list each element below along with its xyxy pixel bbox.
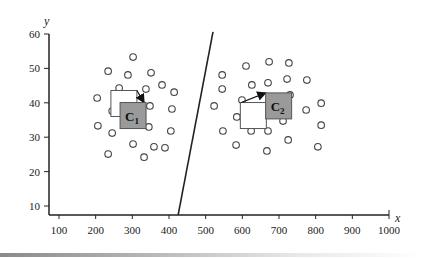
kmeans-chart: 1002003004005006007008009001000102030405… <box>0 0 424 258</box>
cluster-1-point <box>169 106 176 113</box>
decision-boundary-group <box>178 32 213 215</box>
x-tick-label: 700 <box>271 224 288 236</box>
cluster-1-point <box>125 72 132 79</box>
decision-boundary-line <box>178 32 213 215</box>
cluster-1-point <box>171 89 178 96</box>
cluster-2-point <box>315 144 322 151</box>
cluster-2-point <box>286 60 293 67</box>
cluster-2-point <box>303 107 310 114</box>
cluster-1-point <box>151 144 158 151</box>
cluster-1-point <box>141 154 148 161</box>
previous-centroid-square-2 <box>240 103 266 129</box>
y-tick-label: 20 <box>29 166 41 178</box>
x-axis-label: x <box>394 211 401 225</box>
cluster-2-point <box>219 72 226 79</box>
cluster-2-point <box>243 63 250 70</box>
cluster-2-point <box>219 86 226 93</box>
x-tick-label: 500 <box>197 224 214 236</box>
x-tick-label: 800 <box>307 224 324 236</box>
cluster-2-point <box>318 122 325 129</box>
x-tick-label: 200 <box>87 224 104 236</box>
cluster-2-point <box>304 77 311 84</box>
centroid-move-arrow-1 <box>137 90 144 102</box>
cluster-2-point <box>284 76 291 83</box>
bottom-edge-shadow <box>0 253 424 257</box>
cluster-1-point <box>159 82 166 89</box>
x-tick-label: 900 <box>344 224 361 236</box>
cluster-1-point <box>109 130 116 137</box>
cluster-1-point <box>147 103 154 110</box>
cluster-2-point <box>266 59 273 66</box>
cluster-2-point <box>265 80 272 87</box>
cluster-2-point <box>264 148 271 155</box>
cluster-1-point <box>148 70 155 77</box>
cluster-2-point <box>285 137 292 144</box>
cluster-1-point <box>130 54 137 61</box>
y-tick-label: 10 <box>29 200 41 212</box>
x-tick-label: 400 <box>161 224 178 236</box>
cluster-2-point <box>233 142 240 149</box>
cluster-1-point <box>130 141 137 148</box>
cluster-1-point <box>162 145 169 152</box>
cluster-2-point <box>211 103 218 110</box>
cluster-1-point <box>105 68 112 75</box>
y-axis-label: y <box>43 14 50 28</box>
cluster-1-point <box>95 123 102 130</box>
y-tick-label: 60 <box>29 28 41 40</box>
x-tick-label: 300 <box>124 224 141 236</box>
y-tick-label: 40 <box>29 97 41 109</box>
y-tick-label: 30 <box>29 131 41 143</box>
cluster-1-point <box>105 151 112 158</box>
cluster-2-point <box>234 114 241 121</box>
cluster-2-point <box>249 82 256 89</box>
y-tick-label: 50 <box>29 62 41 74</box>
x-tick-label: 600 <box>234 224 251 236</box>
axes: 1002003004005006007008009001000102030405… <box>29 28 401 236</box>
cluster-1-point <box>143 86 150 93</box>
cluster-1-point <box>94 95 101 102</box>
x-tick-label: 1000 <box>378 224 401 236</box>
cluster-2-point <box>318 100 325 107</box>
cluster-2-point <box>220 128 227 135</box>
cluster-1-point <box>168 128 175 135</box>
x-tick-label: 100 <box>51 224 68 236</box>
